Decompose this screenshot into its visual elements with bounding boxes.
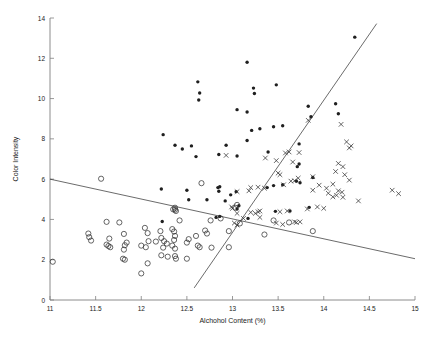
x-axis-title: Alchohol Content (%) (199, 317, 265, 325)
data-point-circle (208, 218, 213, 223)
data-point-dot (309, 115, 312, 118)
data-point-dot (272, 184, 275, 187)
data-point-circle (99, 176, 104, 181)
data-point-dot (334, 102, 337, 105)
data-point-x (258, 215, 263, 220)
x-tick-label: 12.5 (181, 305, 194, 312)
data-point-x (224, 153, 229, 158)
axes-group (50, 18, 415, 300)
data-point-x (341, 164, 346, 169)
data-point-dot (217, 190, 220, 193)
data-point-dot (161, 220, 164, 223)
data-point-x (278, 209, 283, 214)
data-point-x (263, 156, 268, 161)
y-tick-label: 12 (38, 55, 46, 62)
data-point-circle (199, 181, 204, 186)
data-point-x (333, 169, 338, 174)
data-point-x (296, 176, 301, 181)
data-point-x (347, 146, 352, 151)
data-point-dot (245, 139, 248, 142)
data-point-x (274, 158, 279, 163)
data-point-dot (337, 112, 340, 115)
data-point-dot (281, 124, 284, 127)
y-tick-label: 6 (41, 176, 45, 183)
data-point-dot (297, 162, 300, 165)
data-point-circle (104, 219, 109, 224)
data-point-circle (143, 245, 148, 250)
y-tick-label: 2 (41, 256, 45, 263)
data-point-circle (122, 257, 127, 262)
data-point-circle (145, 261, 150, 266)
y-tick-label: 8 (41, 135, 45, 142)
data-point-circle (203, 228, 208, 233)
data-point-circle (286, 220, 291, 225)
data-point-circle (226, 229, 231, 234)
data-point-circle (172, 246, 177, 251)
data-point-x (297, 150, 302, 155)
data-point-x (258, 209, 263, 214)
data-point-x (321, 206, 326, 211)
y-axis-title: Color Intensity (12, 136, 20, 181)
data-point-dot (258, 127, 261, 130)
data-point-dot (272, 125, 275, 128)
data-point-circle (170, 243, 175, 248)
data-point-x (248, 210, 253, 215)
data-point-dot (253, 92, 256, 95)
data-point-x (336, 189, 341, 194)
y-tick-label: 10 (38, 95, 46, 102)
data-point-x (347, 178, 352, 183)
data-point-circle (226, 245, 231, 250)
ascending-boundary (194, 24, 376, 288)
data-point-x (356, 199, 361, 204)
data-point-dot (187, 198, 190, 201)
data-point-circle (159, 253, 164, 258)
data-point-circle (204, 231, 209, 236)
y-tick-label: 4 (41, 216, 45, 223)
data-point-dot (194, 155, 197, 158)
data-point-dot (198, 91, 201, 94)
data-point-circle (165, 254, 170, 259)
data-points-group (50, 35, 401, 276)
x-tick-label: 14 (320, 305, 328, 312)
data-point-dot (275, 83, 278, 86)
data-point-dot (173, 144, 176, 147)
data-point-circle (177, 218, 182, 223)
data-point-dot (214, 216, 217, 219)
boundary-lines-group (50, 24, 415, 288)
data-point-x (344, 140, 349, 145)
data-point-circle (184, 256, 189, 261)
data-point-dot (297, 142, 300, 145)
data-point-circle (121, 231, 126, 236)
data-point-dot (245, 110, 248, 113)
data-point-circle (159, 235, 164, 240)
data-point-circle (139, 271, 144, 276)
series-class-3-x-marker (224, 118, 401, 227)
data-point-circle (262, 232, 267, 237)
data-point-dot (229, 193, 232, 196)
data-point-dot (224, 144, 227, 147)
data-point-circle (108, 245, 113, 250)
x-tick-label: 13 (229, 305, 237, 312)
data-point-x (340, 190, 345, 195)
data-point-dot (246, 217, 249, 220)
data-point-circle (117, 220, 122, 225)
data-point-dot (252, 86, 255, 89)
data-point-circle (209, 245, 214, 250)
data-point-x (342, 172, 347, 177)
data-point-x (256, 185, 261, 190)
data-point-dot (224, 199, 227, 202)
data-point-circle (161, 245, 166, 250)
data-point-x (315, 205, 320, 210)
data-point-dot (307, 105, 310, 108)
scatter-plot-figure: 1111.51212.51313.51414.51502468101214Alc… (0, 0, 430, 344)
data-point-dot (161, 133, 164, 136)
data-point-x (339, 122, 344, 127)
data-point-dot (197, 98, 200, 101)
data-point-dot (235, 108, 238, 111)
data-point-circle (145, 231, 150, 236)
data-point-x (278, 172, 283, 177)
data-point-x (324, 186, 329, 191)
data-point-dot (274, 210, 277, 213)
data-point-circle (146, 239, 151, 244)
data-point-circle (310, 229, 315, 234)
